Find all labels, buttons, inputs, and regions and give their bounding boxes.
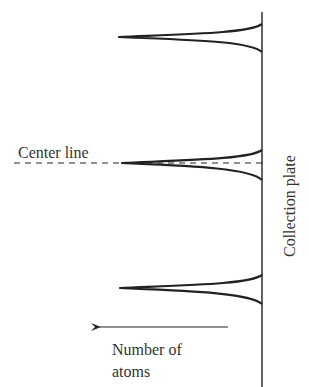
bottom-peak-curve bbox=[120, 275, 262, 304]
top-peak-curve bbox=[119, 24, 262, 52]
collection-plate-label: Collection plate bbox=[281, 155, 299, 257]
number-of-atoms-label-line2: atoms bbox=[112, 363, 150, 380]
center-peak-curve bbox=[122, 150, 262, 180]
atom-distribution-diagram: Center line Collection plate Number of a… bbox=[0, 0, 309, 387]
number-of-atoms-label-line1: Number of bbox=[112, 341, 182, 358]
center-line-label: Center line bbox=[18, 144, 89, 161]
